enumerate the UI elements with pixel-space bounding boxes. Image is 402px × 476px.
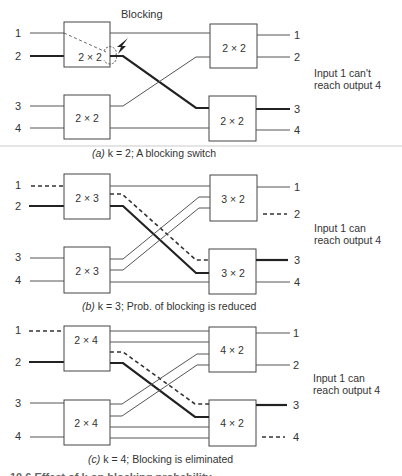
output-label-1: 1 (294, 29, 300, 41)
link-t3-r5-dashed (110, 352, 209, 404)
output-label-4: 4 (293, 431, 299, 443)
left-switch-top-label: 2 × 3 (75, 192, 99, 204)
panel-b: 1 2 3 4 2 × 3 2 × 3 3 × 2 3 × 2 1 2 3 4 … (15, 174, 381, 312)
panel-caption: (a)k = 2; A blocking switch (92, 147, 216, 159)
left-switch-bottom-label: 2 × 4 (74, 417, 98, 429)
switch-diagram: 1 2 3 4 2 × 2 2 × 2 2 × 2 2 × 2 Blocking (0, 0, 402, 476)
input-label-3: 3 (15, 251, 21, 263)
panel-caption: (c)k = 4; Blocking is eliminated (88, 453, 233, 465)
panel-note-line2: reach output 4 (314, 79, 381, 91)
output-label-3: 3 (294, 103, 300, 115)
output-label-2: 2 (293, 359, 299, 371)
input-label-1: 1 (15, 27, 21, 39)
panel-note-line1: Input 1 can't (314, 67, 371, 79)
link-t3-r5 (110, 206, 209, 273)
input-label-2: 2 (15, 356, 21, 368)
input-label-1: 1 (15, 324, 21, 336)
right-switch-bottom-label: 2 × 2 (220, 115, 244, 127)
input-label-2: 2 (15, 50, 21, 62)
output-label-2: 2 (294, 51, 300, 63)
figure-caption-cut: 10.6 Effect of k on blocking probability (10, 470, 212, 476)
input-label-4: 4 (15, 274, 21, 286)
link-b2-r4 (110, 365, 209, 416)
output-label-4: 4 (294, 124, 300, 136)
right-switch-bottom-label: 4 × 2 (220, 417, 244, 429)
output-label-1: 1 (294, 181, 300, 193)
right-switch-bottom-label: 3 × 2 (221, 267, 245, 279)
left-switch-bottom-label: 2 × 3 (75, 265, 99, 277)
panel-a: 1 2 3 4 2 × 2 2 × 2 2 × 2 2 × 2 Blocking (0, 8, 402, 159)
right-switch-top-label: 3 × 2 (221, 193, 245, 205)
left-switch-top (64, 326, 110, 371)
panel-caption: (b)k = 3; Prob. of blocking is reduced (82, 300, 256, 312)
input-label-3: 3 (15, 397, 21, 409)
input-label-1: 1 (15, 179, 21, 191)
right-switch-top-label: 2 × 2 (222, 42, 246, 54)
link-b1-r2 (110, 57, 210, 106)
output-label-3: 3 (293, 399, 299, 411)
panel-note-line1: Input 1 can (314, 222, 366, 234)
output-label-2: 2 (294, 208, 300, 220)
left-switch-top-label: 2 × 2 (78, 51, 102, 63)
link-t2-r4-dashed (110, 194, 209, 260)
panel-note-line2: reach output 4 (313, 384, 380, 396)
panel-note-line1: Input 1 can (313, 372, 365, 384)
input-label-2: 2 (15, 200, 21, 212)
output-label-1: 1 (293, 327, 299, 339)
output-label-4: 4 (294, 276, 300, 288)
panel-note-line2: reach output 4 (314, 234, 381, 246)
left-switch-bottom-label: 2 × 2 (75, 112, 99, 124)
input-label-3: 3 (15, 100, 21, 112)
panel-c: 1 2 3 4 2 × 4 2 × 4 4 × 2 4 × 2 1 2 3 4 … (15, 324, 380, 465)
blocking-callout: Blocking (121, 8, 163, 20)
right-switch-top-label: 4 × 2 (220, 344, 244, 356)
output-label-3: 3 (294, 254, 300, 266)
left-switch-top-label: 2 × 4 (74, 334, 98, 346)
link-b1-r2 (110, 197, 210, 259)
link-b1-r3 (110, 354, 209, 404)
input-label-4: 4 (15, 430, 21, 442)
blocking-arrow-icon (117, 38, 128, 54)
input-label-4: 4 (15, 122, 21, 134)
